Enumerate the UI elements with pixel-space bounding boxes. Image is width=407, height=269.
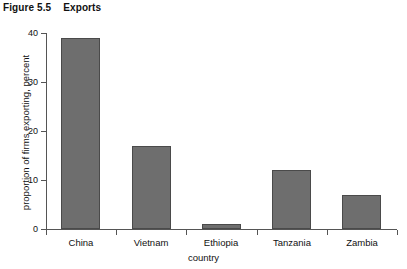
x-axis-title: country bbox=[0, 252, 407, 263]
bar bbox=[61, 38, 100, 229]
y-tick-mark bbox=[41, 82, 46, 83]
x-tick-mark bbox=[46, 230, 47, 235]
x-tick-label: Vietnam bbox=[116, 237, 186, 248]
x-tick-mark bbox=[327, 230, 328, 235]
x-tick-label: Tanzania bbox=[257, 237, 327, 248]
y-axis-title: proportion of firms exporting, percent bbox=[20, 38, 31, 228]
y-tick-mark bbox=[41, 131, 46, 132]
bar bbox=[132, 146, 171, 229]
y-axis-line bbox=[46, 33, 47, 230]
bar bbox=[342, 195, 381, 229]
x-tick-mark bbox=[186, 230, 187, 235]
x-tick-mark bbox=[397, 230, 398, 235]
bar-chart: 010203040 ChinaVietnamEthiopiaTanzaniaZa… bbox=[0, 0, 407, 269]
x-tick-mark bbox=[116, 230, 117, 235]
x-axis-line bbox=[46, 229, 397, 230]
x-tick-label: Ethiopia bbox=[186, 237, 256, 248]
x-tick-label: China bbox=[46, 237, 116, 248]
x-tick-label: Zambia bbox=[327, 237, 397, 248]
bar bbox=[202, 224, 241, 229]
y-tick-mark bbox=[41, 33, 46, 34]
y-tick-mark bbox=[41, 180, 46, 181]
bar bbox=[272, 170, 311, 229]
x-tick-mark bbox=[257, 230, 258, 235]
